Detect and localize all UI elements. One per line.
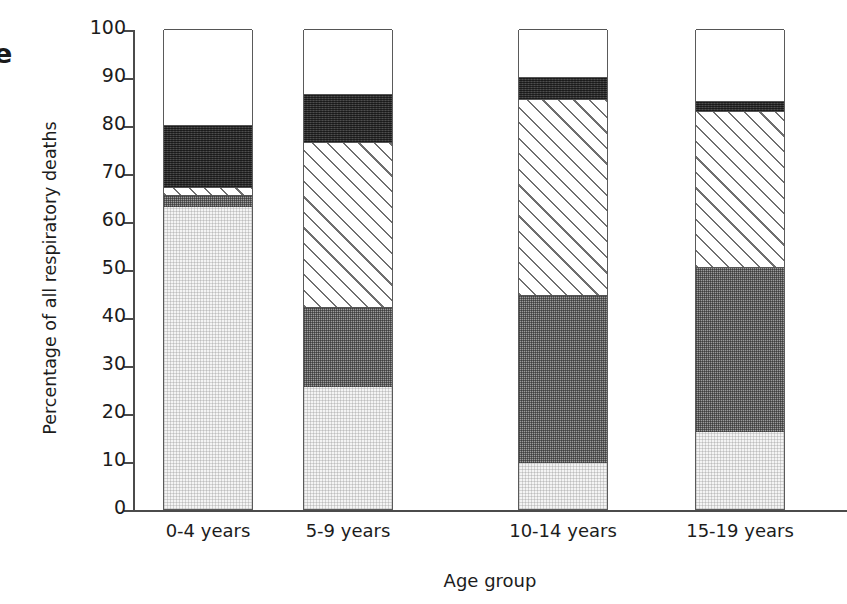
x-axis-line [133, 510, 847, 512]
bar-segment-medium-gray [519, 295, 607, 463]
category-label: 15-19 years [665, 522, 815, 540]
y-tick-label: 90 [102, 66, 126, 85]
bar-segment-white [304, 29, 392, 94]
bar-segment-white [519, 29, 607, 77]
y-tick-label: 10 [102, 450, 126, 469]
bar-segment-white [164, 29, 252, 125]
bar-segment-medium-gray [696, 267, 784, 433]
y-tick-label: 50 [102, 258, 126, 277]
category-label: 5-9 years [273, 522, 423, 540]
bar-segment-dark-gray [304, 94, 392, 142]
y-axis-title: Percentage of all respiratory deaths [40, 78, 60, 478]
bar-segment-light-gray [304, 387, 392, 509]
bar-segment-light-gray [164, 207, 252, 509]
bar-segment-diagonal-hatch [164, 187, 252, 194]
bar-segment-light-gray [696, 432, 784, 509]
bar-segment-white [696, 29, 784, 101]
bar-segment-dark-gray [519, 77, 607, 99]
y-tick-label: 100 [90, 18, 126, 37]
bar-segment-diagonal-hatch [519, 99, 607, 296]
y-tick-label: 20 [102, 402, 126, 421]
stacked-bar [163, 30, 253, 510]
y-axis-line [133, 30, 135, 511]
y-tick-label: 80 [102, 114, 126, 133]
respiratory-deaths-stacked-bar-figure: e Percentage of all respiratory deaths 0… [0, 0, 847, 604]
stacked-bar [303, 30, 393, 510]
bar-segment-diagonal-hatch [304, 142, 392, 308]
stacked-bar [518, 30, 608, 510]
bar-segment-medium-gray [304, 307, 392, 386]
bar-segment-dark-gray [164, 125, 252, 187]
category-label: 0-4 years [133, 522, 283, 540]
y-tick-label: 60 [102, 210, 126, 229]
bar-segment-dark-gray [696, 101, 784, 111]
category-label: 10-14 years [488, 522, 638, 540]
y-tick-label: 70 [102, 162, 126, 181]
bar-segment-light-gray [519, 463, 607, 509]
stacked-bar [695, 30, 785, 510]
bar-segment-diagonal-hatch [696, 111, 784, 267]
y-tick-label: 0 [114, 498, 126, 517]
y-tick-label: 40 [102, 306, 126, 325]
figure-panel-letter: e [0, 40, 12, 67]
x-axis-title: Age group [133, 570, 847, 591]
plot-area: 0102030405060708090100 0-4 years5-9 year… [133, 30, 847, 510]
bar-segment-medium-gray [164, 195, 252, 207]
y-tick-label: 30 [102, 354, 126, 373]
